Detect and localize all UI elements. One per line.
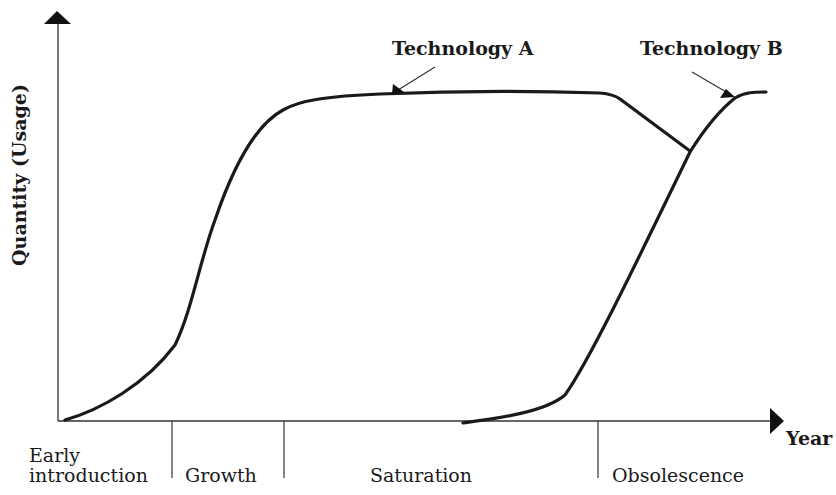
technology-b-pointer-arrowhead-icon (720, 89, 735, 98)
y-axis-label-text: Quantity (Usage) (8, 84, 30, 266)
phase-obsolescence-label: Obsolescence (612, 465, 744, 486)
technology-a-pointer-line (398, 67, 435, 90)
phase-early-line1: Early (29, 445, 80, 466)
phase-saturation-label: Saturation (370, 465, 472, 486)
y-axis-label: Quantity (Usage) (4, 80, 34, 270)
lifecycle-diagram (0, 0, 836, 495)
technology-a-label: Technology A (392, 38, 534, 59)
y-axis-arrowhead-icon (44, 11, 71, 24)
technology-b-pointer-line (692, 72, 728, 93)
x-axis-arrowhead-icon (770, 408, 784, 434)
phase-early-line2: introduction (29, 465, 148, 486)
technology-b-label: Technology B (640, 38, 783, 59)
x-axis-label: Year (786, 428, 832, 449)
technology-a-curve (65, 92, 690, 420)
phase-growth-label: Growth (185, 465, 257, 486)
technology-b-curve (463, 92, 766, 423)
